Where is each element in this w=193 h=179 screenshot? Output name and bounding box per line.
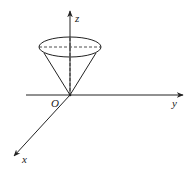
cone-side-left — [44, 53, 70, 95]
origin-point — [69, 94, 72, 97]
cone-side-right — [70, 53, 96, 95]
z-axis-label: z — [74, 12, 80, 24]
x-axis-label: x — [21, 153, 27, 165]
origin-label: O — [51, 97, 59, 109]
diagram-canvas: z y O x — [0, 0, 193, 179]
x-axis — [14, 95, 70, 156]
y-axis-label: y — [171, 97, 177, 109]
